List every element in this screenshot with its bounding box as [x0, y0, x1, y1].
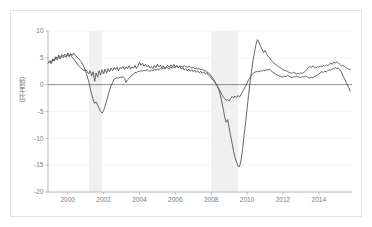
x-tick-label: 2006	[168, 196, 183, 203]
y-tick-label: -10	[34, 135, 44, 142]
chart-plot: 1050-5-10-15-20 200020022004200620082010…	[0, 0, 372, 227]
x-tick-label: 2012	[276, 196, 291, 203]
x-tick-label: 2014	[312, 196, 327, 203]
y-tick-label: 0	[40, 81, 44, 88]
y-axis-ticks: 1050-5-10-15-20	[34, 27, 48, 195]
x-tick-label: 2010	[240, 196, 255, 203]
y-tick-label: -5	[38, 108, 44, 115]
chart-figure: （前年比） 1050-5-10-15-20 200020022004200620…	[0, 0, 372, 227]
y-tick-label: 10	[36, 27, 44, 34]
x-axis-ticks: 20002002200420062008201020122014	[60, 192, 326, 203]
x-tick-label: 2000	[60, 196, 75, 203]
y-tick-label: 5	[40, 54, 44, 61]
x-tick-label: 2002	[96, 196, 111, 203]
y-tick-label: -15	[34, 161, 44, 168]
x-tick-label: 2008	[204, 196, 219, 203]
x-tick-label: 2004	[132, 196, 147, 203]
y-tick-label: -20	[34, 188, 44, 195]
